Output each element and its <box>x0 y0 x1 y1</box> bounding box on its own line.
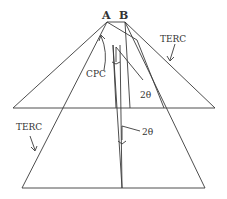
cpc-label: CPC <box>86 69 106 79</box>
lower-terc-left-edge <box>22 22 107 188</box>
angle-lower-label: 2θ <box>142 127 153 137</box>
upper-terc-left-edge <box>13 22 107 108</box>
terc-upper-label: TERC <box>160 34 186 44</box>
terc-upper-arrow-shaft <box>170 44 175 60</box>
lower-terc-right-edge <box>125 22 205 188</box>
terc-lower-label: TERC <box>16 122 42 132</box>
angle-upper-label: 2θ <box>140 90 151 100</box>
point-a-label: A <box>101 9 111 22</box>
angle-arc-upper <box>112 62 120 64</box>
terc-cpc-diagram: A B TERC CPC 2θ TERC 2θ <box>0 0 227 199</box>
cpc-right-line <box>107 22 137 40</box>
cpc-arrow-shaft <box>101 36 105 70</box>
angle-lower-leader <box>122 126 140 131</box>
point-b-label: B <box>119 9 128 22</box>
